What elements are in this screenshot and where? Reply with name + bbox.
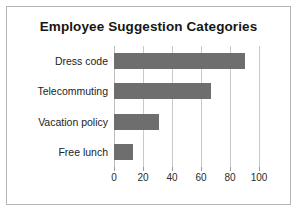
category-label: Telecommuting	[37, 83, 108, 99]
x-axis-tick-0	[114, 167, 115, 171]
plot-area: 020406080100Dress codeTelecommutingVacat…	[114, 46, 259, 167]
bar-telecommuting[interactable]	[114, 83, 211, 99]
bar-row: Vacation policy	[114, 114, 259, 130]
bar-free-lunch[interactable]	[114, 144, 133, 160]
chart-frame: Employee Suggestion Categories 020406080…	[6, 6, 291, 205]
x-axis-tick-100	[259, 167, 260, 171]
category-label: Free lunch	[58, 144, 108, 160]
x-axis-tick-60	[201, 167, 202, 171]
bar-vacation-policy[interactable]	[114, 114, 159, 130]
x-axis-tick-label: 100	[239, 172, 279, 183]
bar-row: Dress code	[114, 53, 259, 69]
x-axis-tick-20	[143, 167, 144, 171]
x-axis-tick-40	[172, 167, 173, 171]
bar-row: Telecommuting	[114, 83, 259, 99]
category-label: Vacation policy	[38, 114, 108, 130]
chart-title: Employee Suggestion Categories	[7, 19, 290, 34]
bar-dress-code[interactable]	[114, 53, 245, 69]
x-axis-tick-80	[230, 167, 231, 171]
bar-row: Free lunch	[114, 144, 259, 160]
category-label: Dress code	[55, 53, 108, 69]
gridline-100	[259, 46, 260, 167]
